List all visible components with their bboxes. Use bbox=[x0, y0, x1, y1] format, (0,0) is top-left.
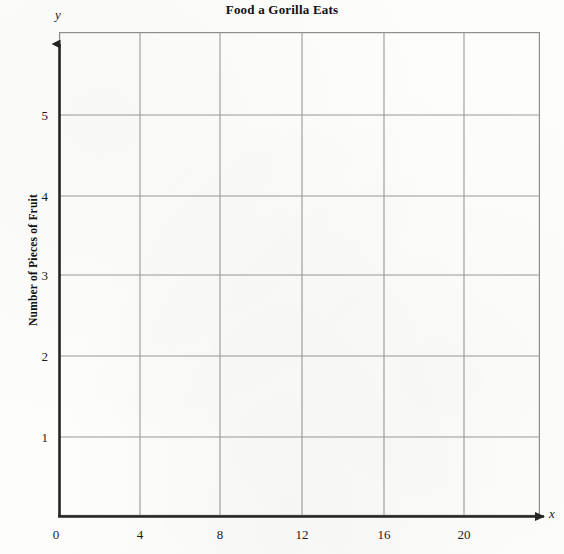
axes bbox=[0, 0, 564, 554]
chart-page: Food a Gorilla Eats bbox=[0, 0, 564, 554]
